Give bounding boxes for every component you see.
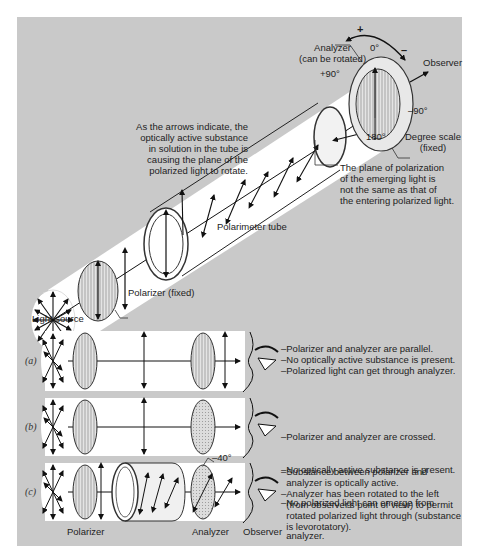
eye-icon	[255, 346, 278, 370]
note-line: polarized light to rotate.	[72, 165, 248, 176]
panel-a-tag: (a)	[25, 355, 37, 366]
angle-minus90: –90°	[408, 105, 428, 116]
note-line: –Polarized light can get through analyze…	[281, 365, 455, 376]
analyzer-label: Analyzer (can be rotated)	[299, 42, 366, 64]
panel-a	[41, 331, 278, 392]
note-line: is levorotatory).	[281, 521, 461, 532]
panel-c-notes: –Substance between polarizer and analyze…	[281, 466, 461, 532]
bottom-analyzer-label: Analyzer	[192, 526, 229, 537]
angle-plus90: +90°	[320, 68, 340, 79]
tube-exit-window	[314, 107, 346, 167]
angle-0: 0°	[370, 42, 379, 53]
light-source-label: Light source	[32, 313, 84, 324]
note-line: –Substance between polarizer and	[281, 466, 461, 477]
note-line: of the emerging light is	[340, 173, 454, 184]
panel-c-angle: –40°	[212, 452, 232, 463]
bottom-observer-label: Observer	[243, 526, 282, 537]
arrows-note: As the arrows indicate, the optically ac…	[72, 121, 248, 176]
degree-scale-line: Degree scale	[405, 131, 461, 142]
note-line: in solution in the tube is	[72, 143, 248, 154]
polarimeter-tube-label: Polarimeter tube	[217, 221, 287, 232]
note-line: rotated polarized light through (substan…	[281, 510, 461, 521]
note-line: analyzer is optically active.	[281, 477, 461, 488]
eye-icon	[255, 412, 278, 436]
analyzer-label-line: Analyzer	[299, 42, 366, 53]
panel-c-tag: (c)	[25, 486, 36, 497]
degree-scale-label: Degree scale (fixed)	[405, 131, 461, 153]
emerging-note: The plane of polarization of the emergin…	[340, 162, 454, 206]
observer-label: Observer	[423, 57, 462, 68]
note-line: –Polarizer and analyzer are crossed.	[281, 431, 455, 442]
note-line: causing the plane of the	[72, 154, 248, 165]
rotation-plus: +	[357, 24, 363, 35]
note-line: not the same as that of	[340, 184, 454, 195]
note-line: –Polarizer and analyzer are parallel.	[281, 343, 455, 354]
eye-icon	[255, 477, 278, 501]
panel-c	[41, 458, 278, 523]
panel-a-notes: –Polarizer and analyzer are parallel. –N…	[281, 343, 455, 376]
note-line: –No optically active substance is presen…	[281, 354, 455, 365]
observer-arrow-icon	[410, 72, 428, 82]
analyzer	[356, 69, 400, 139]
note-line: (from observer's point of view) to permi…	[281, 499, 461, 510]
note-line: The plane of polarization	[340, 162, 454, 173]
note-line: As the arrows indicate, the	[72, 121, 248, 132]
rotation-minus: –	[401, 45, 407, 56]
note-line: –Analyzer has been rotated to the left	[281, 488, 461, 499]
analyzer-label-line: (can be rotated)	[299, 53, 366, 64]
panel-b	[41, 398, 278, 458]
bottom-polarizer-label: Polarizer	[67, 526, 105, 537]
polarizer-fixed-label: Polarizer (fixed)	[128, 287, 195, 298]
note-line: optically active substance	[72, 132, 248, 143]
angle-180: 180°	[366, 131, 386, 142]
degree-scale-line: (fixed)	[405, 142, 461, 153]
panel-b-tag: (b)	[25, 421, 37, 432]
note-line: the entering polarized light.	[340, 195, 454, 206]
